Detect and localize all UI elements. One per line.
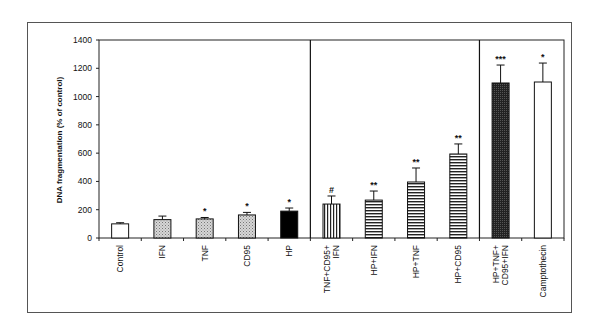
bar-tnf-cd95-ifn bbox=[323, 204, 340, 238]
y-tick-label: 400 bbox=[78, 176, 92, 186]
y-tick-label: 1000 bbox=[73, 92, 92, 102]
significance-marker: *** bbox=[495, 54, 506, 64]
bar-chart: 0200400600800100012001400DNA fragmentati… bbox=[0, 0, 602, 332]
significance-marker: # bbox=[329, 185, 334, 195]
significance-marker: ** bbox=[455, 133, 463, 143]
significance-marker: * bbox=[203, 206, 207, 216]
x-category-label: HP+TNF bbox=[411, 245, 421, 278]
bar-hp-ifn bbox=[365, 200, 382, 238]
y-tick-label: 1200 bbox=[73, 63, 92, 73]
bar-hp-cd95 bbox=[450, 154, 467, 238]
bar-camptothecin bbox=[534, 82, 551, 238]
bar-tnf bbox=[196, 219, 213, 238]
x-category-label: IFN bbox=[157, 245, 167, 259]
bar-hp-tnf bbox=[408, 182, 425, 238]
y-tick-label: 600 bbox=[78, 148, 92, 158]
y-axis-label: DNA fragmentation (% of control) bbox=[55, 76, 64, 203]
bar-hp bbox=[281, 211, 298, 238]
x-category-label: Camptothecin bbox=[538, 245, 548, 298]
significance-marker: ** bbox=[413, 157, 421, 167]
y-tick-label: 200 bbox=[78, 205, 92, 215]
y-tick-label: 800 bbox=[78, 120, 92, 130]
x-category-label: HP bbox=[284, 245, 294, 257]
y-tick-label: 0 bbox=[87, 233, 92, 243]
significance-marker: ** bbox=[370, 180, 378, 190]
bar-cd95 bbox=[238, 215, 255, 238]
x-category-label: TNF bbox=[200, 245, 210, 262]
bar-hp-tnf-cd95-ifn bbox=[492, 83, 509, 238]
x-category-label: HP+CD95 bbox=[453, 245, 463, 284]
x-category-label: CD95+IFN bbox=[500, 245, 510, 285]
x-category-label: CD95 bbox=[242, 245, 252, 267]
x-category-label: Control bbox=[115, 245, 125, 273]
x-category-label: IFN bbox=[331, 245, 341, 259]
significance-marker: * bbox=[541, 52, 545, 62]
x-category-label: HP+IFN bbox=[369, 245, 379, 275]
significance-marker: * bbox=[287, 197, 291, 207]
bar-ifn bbox=[154, 220, 171, 238]
y-tick-label: 1400 bbox=[73, 35, 92, 45]
bar-control bbox=[112, 224, 129, 238]
significance-marker: * bbox=[245, 201, 249, 211]
